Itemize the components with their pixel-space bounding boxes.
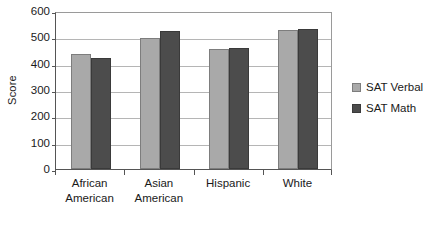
y-axis-tick-label: 400 bbox=[31, 59, 50, 71]
bar-african-american-sat-verbal bbox=[71, 54, 91, 169]
legend-item-sat-math[interactable]: SAT Math bbox=[352, 103, 437, 115]
x-axis-category-label-line1: Hispanic bbox=[206, 177, 250, 189]
x-axis-category-label-line1: Asian bbox=[144, 177, 173, 189]
y-axis-tick-label: 100 bbox=[31, 138, 50, 150]
x-axis-tick-mark bbox=[124, 170, 125, 175]
bar-hispanic-sat-math bbox=[229, 48, 249, 169]
bar-white-sat-verbal bbox=[278, 30, 298, 169]
x-axis-category-label: White bbox=[263, 176, 332, 191]
y-axis-tick-label: 300 bbox=[31, 85, 50, 97]
x-axis-category-label: AfricanAmerican bbox=[55, 176, 124, 205]
plot-area bbox=[55, 12, 332, 170]
bar-asian-american-sat-verbal bbox=[140, 38, 160, 169]
bars-layer bbox=[56, 13, 331, 169]
y-axis-title: Score bbox=[2, 0, 22, 180]
legend-swatch-icon bbox=[352, 83, 361, 92]
y-axis-tick-label: 200 bbox=[31, 112, 50, 124]
legend: SAT VerbalSAT Math bbox=[352, 82, 437, 123]
bar-white-sat-math bbox=[298, 29, 318, 169]
x-axis-category-label: AsianAmerican bbox=[124, 176, 193, 205]
x-axis-category-label-line1: African bbox=[72, 177, 108, 189]
y-axis-tick-label: 600 bbox=[31, 6, 50, 18]
legend-label: SAT Verbal bbox=[366, 82, 423, 94]
x-axis-category-labels: AfricanAmericanAsianAmericanHispanicWhit… bbox=[55, 176, 332, 226]
x-axis-tick-mark bbox=[331, 170, 332, 175]
x-axis-category-label-line2: American bbox=[55, 191, 124, 206]
y-axis-title-text: Score bbox=[6, 75, 18, 105]
y-axis-tick-label: 0 bbox=[44, 164, 50, 176]
legend-item-sat-verbal[interactable]: SAT Verbal bbox=[352, 82, 437, 94]
bar-asian-american-sat-math bbox=[160, 31, 180, 169]
x-axis-category-label-line2: American bbox=[124, 191, 193, 206]
legend-swatch-icon bbox=[352, 104, 361, 113]
x-axis-category-label-line1: White bbox=[283, 177, 312, 189]
x-axis-tick-mark bbox=[194, 170, 195, 175]
bar-hispanic-sat-verbal bbox=[209, 49, 229, 169]
sat-scores-bar-chart: Score 6005004003002001000 AfricanAmerica… bbox=[0, 0, 437, 236]
bar-african-american-sat-math bbox=[91, 58, 111, 169]
x-axis-category-label: Hispanic bbox=[194, 176, 263, 191]
y-axis-tick-label: 500 bbox=[31, 33, 50, 45]
y-axis-tick-labels: 6005004003002001000 bbox=[20, 12, 50, 170]
legend-label: SAT Math bbox=[366, 103, 416, 115]
x-axis-tick-marks bbox=[55, 170, 332, 175]
x-axis-tick-mark bbox=[55, 170, 56, 175]
x-axis-tick-mark bbox=[263, 170, 264, 175]
